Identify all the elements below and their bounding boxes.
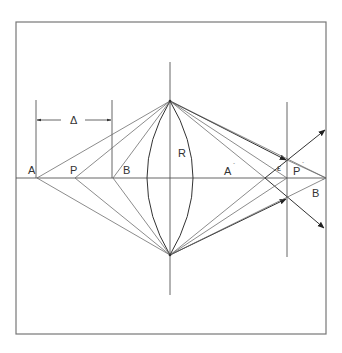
label-B: B xyxy=(123,164,130,176)
label-A: A xyxy=(28,164,36,176)
label-R: R xyxy=(178,147,186,159)
lens-bottom-apex xyxy=(169,254,172,257)
label-epsilon: ε xyxy=(277,163,281,173)
label-delta: Δ xyxy=(70,114,78,126)
label-B-prime: B xyxy=(312,187,319,199)
image-rays-bottom xyxy=(170,130,326,255)
label-A-prime-mark: ´ xyxy=(233,161,236,170)
label-P-prime: P xyxy=(293,165,300,177)
lens-ray-diagram: A P B Δ R A ´ ε P ´ B ´ xyxy=(0,0,342,353)
label-P: P xyxy=(70,164,77,176)
label-P-prime-mark: ´ xyxy=(302,160,305,169)
lens-top-apex xyxy=(169,100,172,103)
label-B-prime-mark: ´ xyxy=(322,177,325,186)
label-A-prime: A xyxy=(224,165,232,177)
